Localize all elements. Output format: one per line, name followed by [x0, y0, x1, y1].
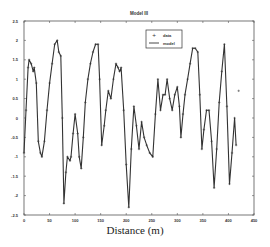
- x-tick-label: 50: [47, 218, 52, 223]
- x-tick-label: 150: [97, 218, 104, 223]
- x-tick-label: 250: [148, 218, 155, 223]
- x-tick-label: 100: [72, 218, 79, 223]
- y-tick-label: 2.5: [12, 19, 18, 24]
- legend-label-data: data: [163, 33, 172, 38]
- y-tick-label: -2.5: [11, 213, 19, 218]
- y-tick-label: -1.5: [11, 174, 19, 179]
- y-tick-label: -1: [14, 154, 18, 159]
- y-tick-label: 0: [16, 116, 19, 121]
- x-axis-label: Distance (m): [0, 224, 270, 236]
- x-tick-label: 0: [23, 218, 26, 223]
- y-tick-label: 1: [16, 77, 19, 82]
- x-tick-label: 400: [225, 218, 232, 223]
- line-chart: Model III -2.5-2-1.5-1-0.500.511.522.5 0…: [0, 0, 270, 247]
- legend-label-model: model: [163, 41, 175, 46]
- x-tick-label: 450: [251, 218, 258, 223]
- x-tick-label: 300: [174, 218, 181, 223]
- y-tick-label: 1.5: [12, 57, 18, 62]
- chart-title: Model III: [130, 11, 148, 16]
- y-tick-label: -2: [14, 193, 18, 198]
- x-tick-label: 200: [123, 218, 130, 223]
- x-tick-label: 350: [200, 218, 207, 223]
- y-tick-label: 0.5: [12, 96, 18, 101]
- legend-marker-plus-icon: +: [152, 32, 156, 38]
- y-tick-label: 2: [16, 38, 19, 43]
- legend: + data model: [146, 30, 182, 48]
- y-tick-label: -0.5: [11, 135, 19, 140]
